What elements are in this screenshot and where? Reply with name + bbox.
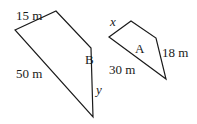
- shape-a-side-label-top: x: [109, 14, 116, 29]
- shape-a-name: A: [135, 41, 145, 56]
- shape-b-side-label-top: 15 m: [16, 8, 42, 23]
- shape-a-side-label-bottom: 30 m: [109, 62, 135, 77]
- shape-b-side-label-left: 50 m: [16, 66, 42, 81]
- quadrilateral-b: [15, 11, 93, 117]
- shape-b-name: B: [85, 52, 94, 67]
- diagram-canvas: B 15 m 50 m y A x 18 m 30 m: [0, 0, 197, 124]
- shape-b-side-label-right: y: [94, 82, 102, 97]
- shape-a-side-label-right: 18 m: [162, 45, 188, 60]
